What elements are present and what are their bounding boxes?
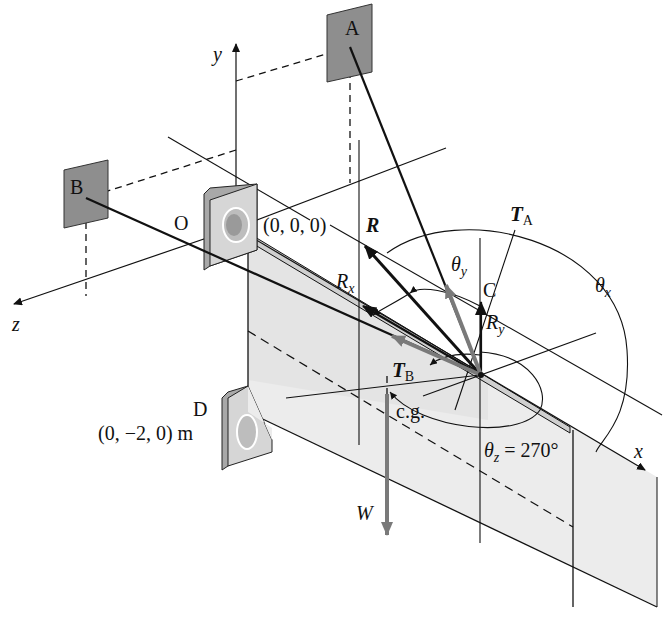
theta-y-label: θy [451,254,467,274]
y-axis-label: y [213,44,222,64]
point-b-label: B [70,177,83,197]
point-d-label: D [193,399,207,419]
z-axis [14,228,236,304]
theta-x-label: θx [595,275,611,295]
force-ta-label: TA [510,204,533,225]
point-c [478,372,484,378]
theta-z-label: θz = 270° [484,440,559,460]
point-c-label: C [483,280,496,300]
point-a-label: A [345,18,359,38]
d-coordinates: (0, −2, 0) m [98,423,193,443]
z-axis-label: z [12,314,20,334]
force-ry-label: Ry [486,312,504,332]
origin-coordinates: (0, 0, 0) [263,215,326,235]
x-axis-label: x [634,441,643,461]
force-tb-label: TB [392,360,414,381]
force-w-label: W [356,503,373,523]
point-o-label: O [174,213,188,233]
anchor-plate-a [327,4,372,82]
free-body-diagram [0,0,672,631]
cg-label: c.g. [396,401,425,421]
force-r-label: R [366,215,379,235]
force-rx-label: Rx [336,271,354,291]
